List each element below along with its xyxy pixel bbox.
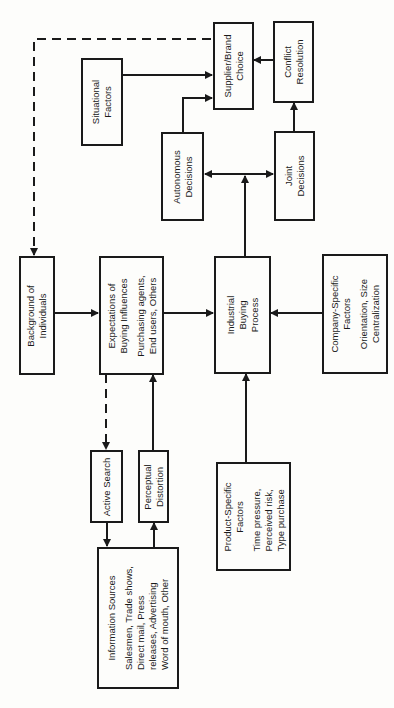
node-label: End users, Others	[146, 275, 158, 356]
node-situational-factors: SituationalFactors	[81, 58, 123, 146]
node-label: Centralization	[370, 275, 382, 352]
node-label: Perceived risk,	[262, 482, 274, 551]
node-label: Autonomous	[171, 150, 183, 203]
node-label: Situational	[90, 80, 102, 124]
node-label: Information Sources	[106, 566, 118, 670]
node-label: Perceptual	[142, 464, 154, 509]
node-product-specific-factors: Product-SpecificFactorsTime pressure,Per…	[216, 462, 291, 571]
node-label: Conflict	[282, 40, 294, 85]
node-label: Word of mouth, Other	[159, 566, 171, 670]
node-label: Buying Influences	[117, 275, 129, 356]
node-expectations: Expectations ofBuying InfluencesPurchasi…	[99, 256, 164, 375]
node-label: Direct mail, Press	[135, 566, 147, 670]
node-label: Factors	[102, 80, 114, 124]
node-company-specific-factors: Company-SpecificFactorsOrientation, Size…	[322, 254, 388, 374]
node-label: Supplier/Brand	[222, 35, 234, 98]
node-background-of-individuals: Background ofIndividuals	[19, 256, 55, 375]
node-industrial-buying-process: IndustrialBuyingProcess	[214, 256, 271, 374]
node-autonomous-decisions: AutonomousDecisions	[161, 132, 204, 221]
node-label: Industrial	[225, 296, 237, 335]
node-label: Salesmen, Trade shows,	[123, 566, 135, 670]
node-label: Distortion	[154, 464, 166, 509]
node-label: Process	[249, 296, 261, 335]
node-label: releases, Advertising	[147, 566, 159, 670]
node-label: Decisions	[295, 155, 307, 196]
node-perceptual-distortion: PerceptualDistortion	[138, 450, 169, 523]
node-label: Factors	[341, 275, 353, 352]
node-label: Type purchase	[274, 482, 286, 551]
node-label: Active Search	[101, 457, 113, 516]
node-label: Purchasing agents,	[134, 275, 146, 356]
node-label: Resolution	[294, 40, 306, 85]
node-label: Choice	[234, 35, 246, 98]
node-label: Individuals	[37, 285, 49, 346]
node-label: Company-Specific	[329, 275, 341, 352]
node-label: Product-Specific	[221, 482, 233, 551]
node-active-search: Active Search	[90, 450, 123, 523]
node-label: Expectations of	[105, 275, 117, 356]
node-supplier-brand-choice: Supplier/BrandChoice	[213, 22, 254, 110]
node-label: Time pressure,	[250, 482, 262, 551]
node-label: Joint	[283, 155, 295, 196]
node-label: Background of	[25, 285, 37, 346]
node-information-sources: Information SourcesSalesmen, Trade shows…	[97, 547, 179, 689]
node-label: Decisions	[183, 150, 195, 203]
node-joint-decisions: JointDecisions	[274, 131, 315, 221]
node-label: Buying	[237, 296, 249, 335]
node-conflict-resolution: ConflictResolution	[273, 21, 314, 103]
node-label: Factors	[233, 482, 245, 551]
node-label: Orientation, Size	[358, 275, 370, 352]
